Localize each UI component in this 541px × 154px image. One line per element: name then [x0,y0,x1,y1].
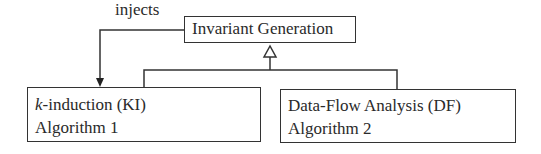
data-flow-subtitle: Algorithm 2 [288,119,372,138]
injects-connector [100,30,184,84]
generalization-triangle-icon [264,46,276,57]
k-induction-subtitle: Algorithm 1 [35,118,119,137]
invariant-generation-node: Invariant Generation [184,16,356,43]
data-flow-title: Data-Flow Analysis (DF) [288,96,461,115]
k-induction-title: -induction (KI) [43,95,146,114]
data-flow-analysis-node: Data-Flow Analysis (DF) Algorithm 2 [280,89,516,143]
arrowhead-icon [96,78,104,87]
k-italic: k [35,95,43,114]
injects-label: injects [115,0,159,20]
k-induction-text: k-induction (KI) Algorithm 1 [35,93,146,139]
invariant-generation-label: Invariant Generation [192,19,333,39]
k-induction-node: k-induction (KI) Algorithm 1 [27,87,261,142]
data-flow-text: Data-Flow Analysis (DF) Algorithm 2 [288,94,461,140]
